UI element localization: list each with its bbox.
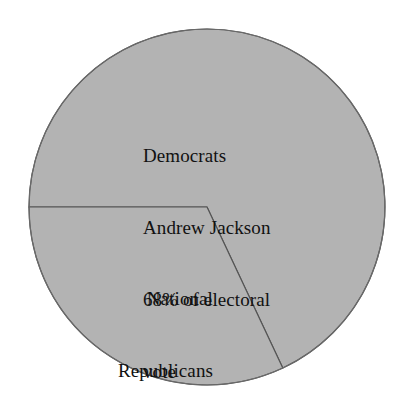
pie-chart: Democrats Andrew Jackson 68% of electora…	[0, 0, 411, 409]
pie-label-national-republicans: National Republicans John Q. Adams 32% o…	[12, 239, 213, 409]
democrats-label-line-2: Andrew Jackson	[143, 216, 271, 240]
democrats-label-line-1: Democrats	[143, 144, 271, 168]
national-republicans-label-line-1: National	[12, 287, 213, 311]
national-republicans-label-line-2: Republicans	[12, 359, 213, 383]
